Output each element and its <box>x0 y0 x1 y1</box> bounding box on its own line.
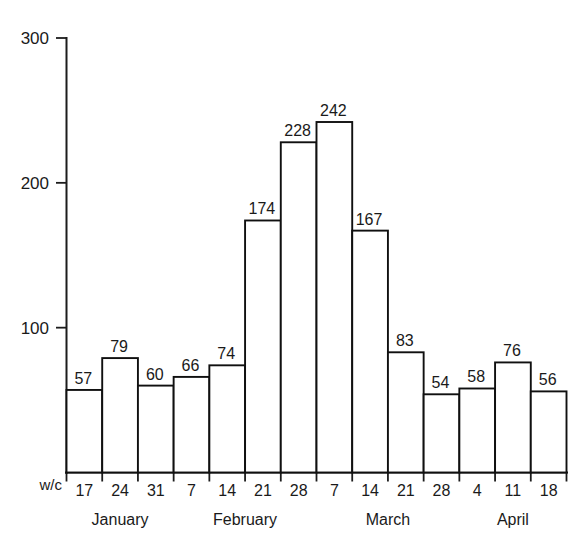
bar-value-label: 79 <box>110 338 128 355</box>
x-axis-tick-labels: 1724317142128714212841118 <box>75 482 557 499</box>
x-tick-label: 14 <box>361 482 379 499</box>
bar <box>495 362 531 472</box>
y-tick-label-200: 200 <box>21 174 49 193</box>
bar <box>388 352 424 472</box>
x-tick-label: 28 <box>290 482 308 499</box>
y-axis-tick-labels: 100200300 <box>21 29 49 338</box>
bar <box>102 358 138 472</box>
x-tick-label: 11 <box>505 482 522 499</box>
month-label: January <box>92 511 149 528</box>
bar-value-label: 60 <box>146 366 164 383</box>
bar <box>352 231 388 473</box>
x-axis-ticks <box>67 473 567 482</box>
bar <box>174 377 210 473</box>
x-axis: 1724317142128714212841118 <box>66 473 567 499</box>
bar <box>209 365 245 472</box>
bar-value-label: 57 <box>74 370 92 387</box>
bar-value-label: 174 <box>249 200 276 217</box>
month-group-labels: JanuaryFebruaryMarchApril <box>92 511 529 528</box>
bar <box>531 391 567 472</box>
bar-value-label: 58 <box>467 368 485 385</box>
bar-value-label: 83 <box>396 332 414 349</box>
x-tick-label: 24 <box>111 482 129 499</box>
x-tick-label: 21 <box>397 482 415 499</box>
y-tick-label-100: 100 <box>21 319 49 338</box>
x-tick-label: 21 <box>254 482 272 499</box>
month-label: March <box>366 511 410 528</box>
y-tick-label-300: 300 <box>21 29 49 48</box>
x-axis-caption: w/c <box>39 476 63 493</box>
y-axis: 100200300 <box>21 29 67 473</box>
x-tick-label: 17 <box>75 482 93 499</box>
month-label: April <box>497 511 529 528</box>
bar-value-label: 76 <box>503 342 521 359</box>
month-label: February <box>213 511 277 528</box>
y-axis-ticks <box>56 38 67 328</box>
bar-value-label: 54 <box>432 374 450 391</box>
chart-canvas: 100200300 1724317142128714212841118 5779… <box>0 0 588 547</box>
bar-value-label: 74 <box>217 345 235 362</box>
bars-series <box>67 122 567 472</box>
x-tick-label: 14 <box>218 482 236 499</box>
bar-chart: 100200300 1724317142128714212841118 5779… <box>0 0 588 547</box>
bar-value-label: 167 <box>356 211 383 228</box>
bar <box>138 386 174 473</box>
x-tick-label: 18 <box>540 482 558 499</box>
x-tick-label: 7 <box>187 482 196 499</box>
bar-value-label: 66 <box>182 357 200 374</box>
bar <box>424 394 460 472</box>
x-tick-label: 31 <box>147 482 165 499</box>
x-tick-label: 4 <box>473 482 482 499</box>
bar <box>281 142 317 472</box>
bar-value-label: 228 <box>284 122 311 139</box>
bar-value-label: 242 <box>320 102 347 119</box>
x-tick-label: 7 <box>330 482 339 499</box>
bar-value-label: 56 <box>539 371 557 388</box>
x-tick-label: 28 <box>433 482 451 499</box>
bar <box>67 390 103 473</box>
bar <box>459 388 495 472</box>
bar <box>317 122 353 472</box>
bar <box>245 220 281 472</box>
